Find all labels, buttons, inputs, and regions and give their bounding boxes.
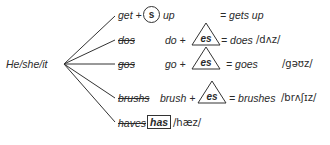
row-have-ipa: /hæz/	[173, 117, 201, 129]
row-go-ipa: /gəʊz/	[282, 58, 313, 70]
row-brush-result: = brushes	[229, 92, 275, 104]
suffix-es-triangle: es	[191, 46, 221, 70]
row-go-base: go +	[165, 58, 186, 70]
row-brush-wrong: brushs	[118, 92, 150, 104]
row-do-ipa: /dʌz/	[256, 34, 280, 46]
suffix-es: es	[191, 33, 221, 44]
row-have-wrong: haves	[118, 117, 146, 129]
suffix-es: es	[191, 57, 221, 68]
row-brush-base: brush +	[160, 92, 195, 104]
row-get-base: get +	[118, 9, 142, 21]
suffix-es-triangle: es	[197, 80, 227, 104]
row-do-wrong: dos	[118, 34, 135, 46]
subject-label: He/she/it	[6, 58, 47, 70]
suffix-s-circle: s	[143, 6, 160, 23]
row-get-result: = gets up	[220, 9, 264, 21]
row-have-correct-box: has	[147, 115, 171, 129]
suffix-es-triangle: es	[191, 22, 221, 46]
row-brush-ipa: /brʌʃɪz/	[281, 92, 316, 104]
suffix-es: es	[197, 91, 227, 102]
row-do-result: = does	[221, 34, 253, 46]
row-do-base: do +	[165, 34, 186, 46]
row-go-wrong: gos	[118, 58, 135, 70]
row-go-result: = goes	[226, 58, 258, 70]
row-get-after: up	[163, 9, 175, 21]
